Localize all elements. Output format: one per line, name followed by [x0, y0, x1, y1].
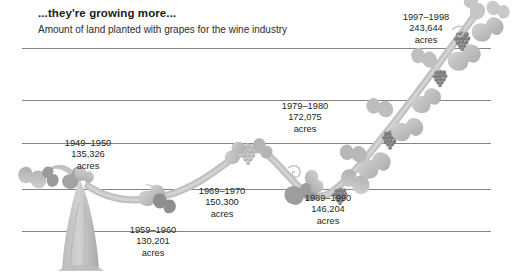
data-label-1959-1960: 1959–1960 130,201 acres — [101, 225, 205, 259]
data-label-1997-1998: 1997–1998 243,644 acres — [374, 12, 478, 46]
data-label-1989-1990: 1989–1990 146,204 acres — [276, 193, 380, 227]
data-label-value: 146,204 — [276, 204, 380, 215]
data-label-period: 1949–1950 — [36, 138, 140, 149]
leaf-1997-c — [484, 0, 511, 21]
data-label-period: 1969–1970 — [170, 186, 274, 197]
leaf-asc-6 — [409, 85, 445, 118]
data-label-value: 135,326 — [36, 149, 140, 160]
data-label-unit: acres — [36, 161, 140, 172]
grape-cluster-asc-3 — [433, 70, 448, 87]
data-label-1969-1970: 1969–1970 150,300 acres — [170, 186, 274, 220]
data-label-period: 1997–1998 — [374, 12, 478, 23]
data-label-unit: acres — [101, 248, 205, 259]
leaf-asc-5 — [364, 96, 395, 119]
chart-root: ...they're growing more... Amount of lan… — [0, 0, 513, 279]
leaf-asc-3 — [339, 143, 369, 164]
data-label-period: 1979–1980 — [253, 101, 357, 112]
data-label-value: 130,201 — [101, 236, 205, 247]
data-label-1979-1980: 1979–1980 172,075 acres — [253, 101, 357, 135]
data-label-unit: acres — [253, 124, 357, 135]
data-label-unit: acres — [276, 216, 380, 227]
data-label-period: 1989–1990 — [276, 193, 380, 204]
vine-trunk — [62, 180, 99, 270]
data-label-1949-1950: 1949–1950 135,326 acres — [36, 138, 140, 172]
data-label-value: 150,300 — [170, 197, 274, 208]
data-label-value: 172,075 — [253, 112, 357, 123]
data-label-period: 1959–1960 — [101, 225, 205, 236]
data-label-unit: acres — [170, 209, 274, 220]
data-label-unit: acres — [374, 35, 478, 46]
data-label-value: 243,644 — [374, 23, 478, 34]
